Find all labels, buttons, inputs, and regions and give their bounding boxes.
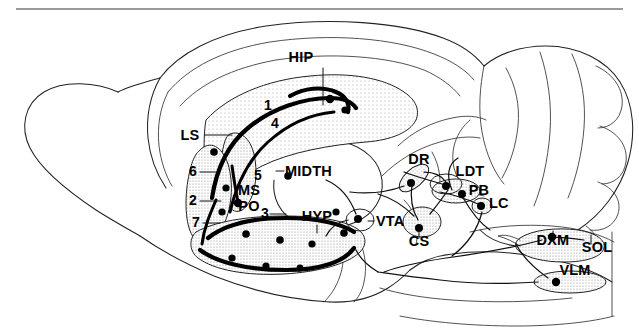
terminal-dot-vta-2	[332, 208, 339, 215]
terminal-dot-ls	[210, 148, 218, 156]
cerebellum-folium-3	[568, 54, 585, 198]
cerebellum-outline	[480, 46, 633, 246]
pathway-number-n1: 1	[264, 97, 272, 113]
cerebellum-scallop-a	[596, 66, 622, 128]
region-label-ls: LS	[181, 127, 200, 143]
region-label-po: PO	[238, 198, 259, 214]
pathway-number-n2: 2	[189, 192, 197, 208]
terminal-dot-vta	[354, 215, 362, 223]
region-label-pb: PB	[469, 182, 490, 198]
cerebellum-folium-1	[502, 68, 519, 178]
region-label-ldt: LDT	[456, 163, 485, 179]
cerebellum-scallop-b	[600, 126, 626, 184]
cerebellum-folium-2	[534, 52, 551, 206]
terminal-dot-ldt	[442, 182, 450, 190]
pathway-number-n7: 7	[192, 214, 200, 230]
frontal-medial-outline	[148, 78, 167, 188]
terminal-dot-lc	[477, 202, 485, 210]
region-label-vlm: VLM	[559, 262, 590, 278]
pathway-number-n4: 4	[271, 115, 279, 131]
pathway-number-n6: 6	[189, 163, 197, 179]
frontal-medial-inner	[158, 92, 172, 186]
terminal-dot-hyp-4	[228, 254, 235, 261]
region-label-dxm: DXM	[537, 232, 570, 248]
region-label-hip: HIP	[289, 49, 314, 65]
terminal-dot-po	[218, 208, 225, 215]
region-label-dr: DR	[408, 151, 430, 167]
terminal-dot-hyp-2	[276, 236, 284, 244]
region-label-vta: VTA	[376, 213, 405, 229]
terminal-dot-pb	[458, 190, 466, 198]
terminal-dot-vlm	[552, 278, 560, 286]
olfactory-bulb-outline	[25, 84, 140, 236]
medulla-floor-outline	[380, 288, 572, 302]
cerebellum-group	[453, 46, 633, 259]
sagittal-brain-svg: HIPLSMIDTHMSPOHYPVTADRLDTPBLCCSDXMSOLVLM…	[0, 0, 639, 336]
fiber-dr-ascending	[350, 186, 404, 193]
terminal-dot-hyp-6	[297, 265, 304, 272]
terminal-dot-hyp-5	[262, 262, 269, 269]
region-label-cs: CS	[409, 233, 430, 249]
terminal-dot-septum	[222, 184, 229, 191]
dorsal-cortex-outline	[160, 22, 484, 78]
region-label-lc: LC	[489, 195, 509, 211]
pathway-number-n3: 3	[261, 205, 269, 221]
terminal-dot-hyp-3	[308, 240, 315, 247]
region-label-ms: MS	[238, 182, 260, 198]
terminal-dot-dr	[407, 179, 415, 187]
medulla-lower-outline	[400, 316, 614, 326]
pathway-number-n5: 5	[254, 167, 262, 183]
olfactory-bulb-stalk	[118, 78, 160, 92]
terminal-dot-hyp-1	[242, 230, 250, 238]
region-label-midth: MIDTH	[285, 163, 332, 179]
region-label-hyp: HYP	[302, 208, 333, 224]
terminal-dot-hip-2	[341, 106, 348, 113]
terminal-dot-mfb-end	[340, 229, 348, 237]
brain-diagram-figure: HIPLSMIDTHMSPOHYPVTADRLDTPBLCCSDXMSOLVLM…	[0, 0, 639, 336]
terminal-dot-hip	[326, 95, 334, 103]
region-label-sol: SOL	[582, 239, 612, 255]
